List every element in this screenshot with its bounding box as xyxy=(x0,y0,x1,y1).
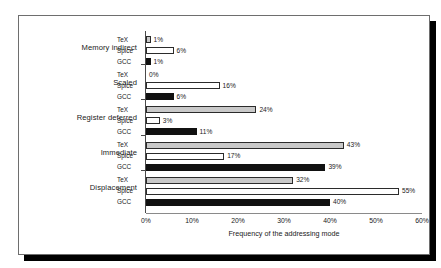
y-axis-tick xyxy=(141,64,146,65)
y-axis-tick xyxy=(141,170,146,171)
bar-spice xyxy=(146,47,174,54)
bar-value-label: 55% xyxy=(402,187,415,194)
bar-value-label: 40% xyxy=(333,198,346,205)
series-label-spice: Spice xyxy=(117,117,143,124)
bar-gcc xyxy=(146,128,197,135)
y-axis-tick xyxy=(141,99,146,100)
series-label-tex: TeX xyxy=(117,106,143,113)
x-axis-tick-label: 10% xyxy=(172,217,212,224)
bar-value-label: 1% xyxy=(154,58,164,65)
bar-value-label: 0% xyxy=(149,71,159,78)
series-label-spice: Spice xyxy=(117,47,143,54)
bar-value-label: 3% xyxy=(163,117,173,124)
bar-gcc xyxy=(146,199,330,206)
bar-value-label: 1% xyxy=(154,36,164,43)
series-label-tex: TeX xyxy=(117,71,143,78)
series-label-tex: TeX xyxy=(117,36,143,43)
series-label-spice: Spice xyxy=(117,187,143,194)
bar-tex xyxy=(146,177,293,184)
series-label-gcc: GCC xyxy=(117,58,143,65)
bar-chart-plot-area: Memory indirectTeX1%Spice6%GCC1%ScaledTe… xyxy=(19,16,431,256)
series-label-gcc: GCC xyxy=(117,93,143,100)
x-axis-title: Frequency of the addressing mode xyxy=(146,229,422,238)
bar-gcc xyxy=(146,93,174,100)
x-axis-tick-label: 30% xyxy=(264,217,304,224)
y-axis-tick xyxy=(141,135,146,136)
bar-spice xyxy=(146,117,160,124)
bar-value-label: 17% xyxy=(227,152,240,159)
bar-value-label: 6% xyxy=(177,93,187,100)
series-label-gcc: GCC xyxy=(117,128,143,135)
bar-value-label: 16% xyxy=(223,82,236,89)
bar-value-label: 32% xyxy=(296,176,309,183)
bar-tex xyxy=(146,106,256,113)
x-axis-tick-label: 60% xyxy=(402,217,441,224)
bar-value-label: 6% xyxy=(177,47,187,54)
series-label-gcc: GCC xyxy=(117,163,143,170)
bar-tex xyxy=(146,142,344,149)
figure-frame: Memory indirectTeX1%Spice6%GCC1%ScaledTe… xyxy=(18,15,430,255)
series-label-spice: Spice xyxy=(117,82,143,89)
series-label-gcc: GCC xyxy=(117,198,143,205)
bar-value-label: 24% xyxy=(259,106,272,113)
x-axis-tick-label: 20% xyxy=(218,217,258,224)
bar-spice xyxy=(146,153,224,160)
series-label-spice: Spice xyxy=(117,152,143,159)
bar-tex xyxy=(146,36,151,43)
figure-root: Memory indirectTeX1%Spice6%GCC1%ScaledTe… xyxy=(0,0,441,268)
bar-gcc xyxy=(146,58,151,65)
x-axis-line xyxy=(146,213,422,214)
bar-spice xyxy=(146,188,399,195)
x-axis-tick-label: 40% xyxy=(310,217,350,224)
bar-value-label: 39% xyxy=(328,163,341,170)
bar-value-label: 43% xyxy=(347,141,360,148)
series-label-tex: TeX xyxy=(117,141,143,148)
x-axis-tick-label: 0% xyxy=(126,217,166,224)
bar-spice xyxy=(146,82,220,89)
bar-value-label: 11% xyxy=(200,128,213,135)
bar-gcc xyxy=(146,164,325,171)
series-label-tex: TeX xyxy=(117,176,143,183)
x-axis-tick-label: 50% xyxy=(356,217,396,224)
